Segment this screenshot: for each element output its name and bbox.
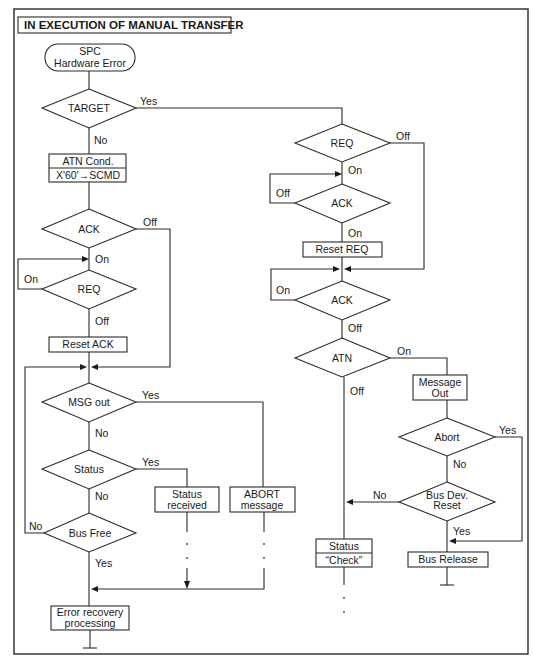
edge-label-req-right-on: On — [348, 164, 362, 176]
node-reset-req-process: Reset REQ — [303, 242, 382, 257]
svg-text:Hardware Error: Hardware Error — [54, 57, 126, 69]
edge-label-ack-right-2-off: Off — [348, 322, 362, 334]
node-ack-right-1-decision: ACK — [295, 184, 390, 223]
node-reset-ack-process: Reset ACK — [49, 337, 127, 352]
edge-label-abort-no: No — [453, 458, 467, 470]
node-status-decision: Status — [42, 450, 136, 489]
edge-label-ack-right-1-on: On — [348, 227, 362, 239]
edge-label-req-left-on: On — [24, 273, 38, 285]
svg-text:Reset ACK: Reset ACK — [62, 338, 113, 350]
flowchart-canvas: IN EXECUTION OF MANUAL TRANSFER SPC Hard… — [0, 0, 533, 660]
edge-label-req-left-off: Off — [95, 315, 109, 327]
node-status-check-process: Status “Check” — [316, 539, 372, 567]
edge-label-msg-out-yes: Yes — [142, 389, 159, 401]
edge-label-status-yes: Yes — [142, 456, 159, 468]
node-bus-free-decision: Bus Free — [44, 513, 136, 552]
node-msg-out-decision: MSG out — [42, 383, 136, 422]
svg-text:REQ: REQ — [78, 283, 101, 295]
edge-label-ack-left-on: On — [95, 253, 109, 265]
svg-text:MSG out: MSG out — [68, 396, 110, 408]
diagram-title: IN EXECUTION OF MANUAL TRANSFER — [24, 19, 244, 31]
svg-text:Reset: Reset — [433, 499, 461, 511]
svg-text:“Check”: “Check” — [326, 554, 363, 566]
edge-label-ack-right-2-on: On — [276, 284, 290, 296]
svg-text:Reset REQ: Reset REQ — [315, 243, 368, 255]
svg-text:ACK: ACK — [78, 223, 100, 235]
node-error-recovery-process: Error recovery processing — [51, 606, 129, 630]
svg-text:X'60'→SCMD: X'60'→SCMD — [56, 169, 121, 181]
node-req-left-decision: REQ — [42, 270, 136, 309]
svg-text:ATN: ATN — [332, 352, 352, 364]
edge-label-status-no: No — [95, 490, 109, 502]
edge-label-target-no: No — [94, 134, 108, 146]
node-start-terminal: SPC Hardware Error — [45, 44, 135, 71]
svg-text:Out: Out — [432, 387, 449, 399]
svg-text:Status: Status — [74, 463, 104, 475]
edge-label-ack-left-off: Off — [143, 216, 157, 228]
node-bus-release-process: Bus Release — [408, 552, 488, 567]
node-target-decision: TARGET — [42, 89, 136, 128]
edge-label-bus-free-no: No — [29, 520, 43, 532]
title-box: IN EXECUTION OF MANUAL TRANSFER — [18, 17, 244, 33]
svg-text:SPC: SPC — [79, 45, 101, 57]
edge-label-bus-dev-reset-no: No — [373, 489, 387, 501]
edge-label-ack-right-1-off: Off — [276, 187, 290, 199]
node-req-right-decision: REQ — [295, 124, 390, 162]
svg-text:TARGET: TARGET — [68, 102, 110, 114]
node-atn-cond-process: ATN Cond. X'60'→SCMD — [49, 154, 126, 182]
svg-text:ACK: ACK — [331, 197, 353, 209]
svg-text:message: message — [241, 499, 284, 511]
node-abort-message-process: ABORT message — [230, 487, 295, 512]
svg-text:Status: Status — [329, 540, 359, 552]
edge-label-atn-on: On — [397, 345, 411, 357]
node-abort-decision: Abort — [399, 418, 495, 456]
svg-text:processing: processing — [65, 617, 116, 629]
node-status-received-process: Status received — [155, 487, 219, 512]
svg-text:Bus Free: Bus Free — [69, 527, 112, 539]
edge-label-abort-yes: Yes — [499, 424, 516, 436]
node-ack-left-decision: ACK — [42, 209, 136, 248]
edge-label-msg-out-no: No — [95, 427, 109, 439]
edge-label-bus-dev-reset-yes: Yes — [453, 525, 470, 537]
svg-text:received: received — [167, 499, 207, 511]
edge-label-target-yes: Yes — [140, 95, 157, 107]
svg-text:REQ: REQ — [331, 137, 354, 149]
svg-text:Abort: Abort — [434, 431, 459, 443]
svg-text:ATN Cond.: ATN Cond. — [62, 155, 113, 167]
edge-label-bus-free-yes: Yes — [95, 557, 112, 569]
node-ack-right-2-decision: ACK — [295, 281, 390, 320]
node-atn-decision: ATN — [295, 338, 390, 377]
svg-text:ACK: ACK — [331, 294, 353, 306]
edge-label-atn-off: Off — [350, 385, 364, 397]
edge-label-req-right-off: Off — [396, 130, 410, 142]
svg-text:Bus Release: Bus Release — [418, 553, 478, 565]
node-bus-dev-reset-decision: Bus Dev. Reset — [399, 482, 495, 521]
node-message-out-process: Message Out — [413, 375, 467, 400]
